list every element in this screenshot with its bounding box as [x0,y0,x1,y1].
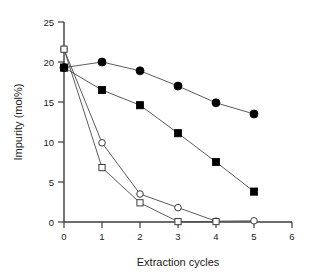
data-point-filled-square-3 [174,130,181,137]
data-point-open-square-1 [99,165,105,171]
x-tick-label-2: 2 [137,231,142,242]
data-point-open-circle-5 [251,218,258,225]
impurity-vs-extraction-cycles-chart: 0 5 10 15 20 25 Impurity (mol%) 0 [0,0,312,280]
data-point-filled-square-1 [98,86,105,93]
data-point-filled-square-4 [212,158,219,165]
x-tick-label-1: 1 [99,231,104,242]
data-point-filled-circle-1 [98,58,106,66]
x-tick-label-4: 4 [213,231,218,242]
data-point-filled-circle-5 [250,110,258,118]
data-point-open-circle-1 [99,140,106,147]
x-tick-label-6: 6 [289,231,294,242]
x-tick-label-3: 3 [175,231,180,242]
data-point-open-square-3 [175,219,181,225]
data-point-filled-square-5 [250,188,257,195]
y-tick-label-25: 25 [43,17,54,28]
x-axis-title: Extraction cycles [137,256,220,268]
data-point-open-square-4 [213,219,219,225]
x-tick-label-5: 5 [251,231,256,242]
data-point-filled-circle-4 [212,99,220,107]
x-tick-label-0: 0 [61,231,66,242]
y-tick-label-5: 5 [49,177,54,188]
data-point-open-square-0 [61,46,67,52]
data-point-open-circle-2 [137,191,144,198]
data-point-filled-circle-3 [174,82,182,90]
y-tick-label-0: 0 [49,217,54,228]
data-point-filled-square-0 [60,64,67,71]
y-tick-label-15: 15 [43,97,54,108]
data-point-filled-square-2 [136,102,143,109]
y-axis-title: Impurity (mol%) [12,83,24,160]
y-tick-label-10: 10 [43,137,54,148]
data-point-open-square-2 [137,200,143,206]
y-tick-label-20: 20 [43,57,54,68]
data-point-filled-circle-2 [136,67,144,75]
data-point-open-circle-3 [175,204,182,211]
